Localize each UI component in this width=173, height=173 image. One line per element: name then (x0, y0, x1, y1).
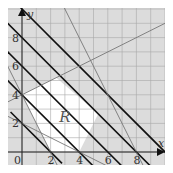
x-tick-label: 8 (133, 154, 140, 167)
y-tick-label: 2 (12, 117, 19, 130)
x-axis-label: x (158, 137, 165, 150)
y-tick-label: 6 (12, 60, 19, 73)
origin-label: 0 (14, 154, 21, 167)
plot-background (8, 8, 165, 165)
linear-programming-graph: 24682468 R x y 0 (0, 0, 173, 173)
x-tick-label: 6 (105, 154, 112, 167)
x-tick-label: 2 (48, 154, 55, 167)
y-tick-label: 8 (12, 32, 19, 45)
y-tick-label: 4 (12, 89, 19, 102)
region-label: R (58, 108, 70, 126)
x-tick-label: 4 (76, 154, 83, 167)
y-axis-label: y (26, 8, 34, 21)
